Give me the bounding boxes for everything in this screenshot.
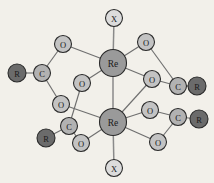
atom-o-lower-left-circle [53,96,70,113]
atom-c-bottom-left: C [61,118,78,135]
atom-r-right-circle [188,77,206,95]
atom-o-bottom-left-circle [73,135,90,152]
atom-x-axial-bottom: X [106,160,123,177]
atom-o-upper-right-circle [138,34,155,51]
atom-o-upper-left: O [55,36,72,53]
atom-o-mid-right-lower: O [142,102,159,119]
atom-o-mid-left-front-circle [74,75,91,92]
molecule-canvas: XReReXOOCROOCROOCROOCR [0,0,214,183]
atom-o-upper-left-circle [55,36,72,53]
atom-r-left-circle [8,64,26,82]
atom-c-right-circle [170,78,187,95]
atom-o-bottom-left: O [73,135,90,152]
atom-c-left-circle [34,65,51,82]
atom-r-bottom-left: R [37,129,55,147]
atom-layer: XReReXOOCROOCROOCROOCR [8,10,208,177]
atom-o-mid-right-circle [144,71,161,88]
atom-o-bottom-right: O [150,134,167,151]
atom-x-axial-top-circle [106,10,123,27]
atom-o-bottom-right-circle [150,134,167,151]
atom-o-lower-left: O [53,96,70,113]
atom-r-bottom-right: R [190,110,208,128]
atom-c-bottom-right-circle [170,109,187,126]
atom-c-bottom-right: C [170,109,187,126]
atom-o-mid-left-front: O [74,75,91,92]
atom-x-axial-top: X [106,10,123,27]
atom-c-bottom-left-circle [61,118,78,135]
atom-r-bottom-right-circle [190,110,208,128]
atom-c-right: C [170,78,187,95]
atom-r-bottom-left-circle [37,129,55,147]
atom-re-lower: Re [100,109,127,136]
atom-r-right: R [188,77,206,95]
atom-r-left: R [8,64,26,82]
atom-re-upper: Re [100,50,127,77]
atom-re-lower-circle [100,109,127,136]
atom-re-upper-circle [100,50,127,77]
atom-o-mid-right: O [144,71,161,88]
atom-o-upper-right: O [138,34,155,51]
atom-o-mid-right-lower-circle [142,102,159,119]
atom-x-axial-bottom-circle [106,160,123,177]
atom-c-left: C [34,65,51,82]
molecular-structure-diagram: XReReXOOCROOCROOCROOCR [0,0,214,183]
